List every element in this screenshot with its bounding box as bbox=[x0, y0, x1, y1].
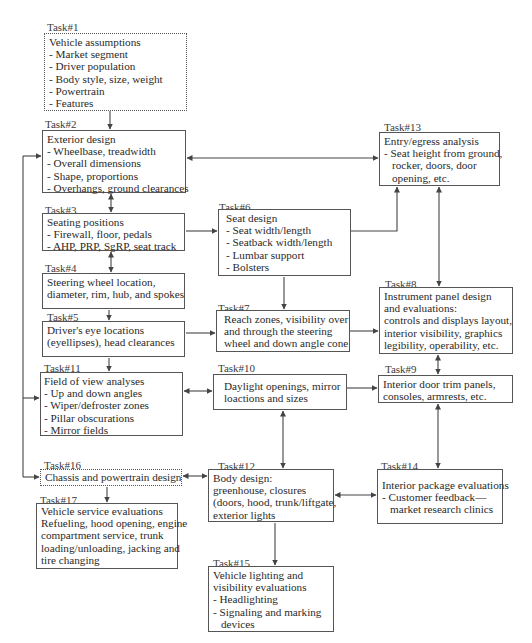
task11-item: - Up and down angles bbox=[44, 387, 178, 399]
task9-label: Task#9 bbox=[385, 363, 417, 375]
task10-daylight-openings-box: Daylight openings, mirror loactions and … bbox=[213, 374, 347, 410]
task1-item: - Powertrain bbox=[49, 85, 182, 97]
task10-label: Task#10 bbox=[218, 362, 255, 374]
task11-item: - Pillar obscurations bbox=[44, 412, 178, 424]
task5-line: (eyellipses), head clearances bbox=[47, 336, 180, 348]
task12-line: greenhouse, closures bbox=[213, 484, 329, 496]
task2-item: - Wheelbase, treadwidth bbox=[47, 145, 181, 157]
task1-item: - Driver population bbox=[49, 60, 182, 72]
task6-item: - Lumbar support bbox=[226, 249, 346, 261]
task13-line: - Seat height from ground, bbox=[384, 147, 495, 159]
arrow-t6-t13 bbox=[351, 187, 397, 231]
task7-line: wheel and down angle cone bbox=[224, 337, 345, 349]
task15-line: - Headlighting bbox=[213, 593, 329, 605]
task15-vehicle-lighting-box: Vehicle lighting and visibility evaluati… bbox=[208, 566, 334, 632]
task4-line: diameter, rim, hub, and spokes bbox=[47, 288, 180, 300]
task16-chassis-powertrain-box: Chassis and powertrain design bbox=[40, 469, 182, 486]
task17-line: Vehicle service evaluations bbox=[41, 505, 173, 517]
task12-line: exterior lights bbox=[213, 509, 329, 521]
task2-title: Exterior design bbox=[47, 133, 181, 145]
task17-line: compartment service, trunk bbox=[41, 529, 173, 541]
task1-item: - Features bbox=[49, 97, 182, 109]
task3-item: - AHP, PRP, SgRP, seat track bbox=[47, 240, 180, 252]
task2-item: - Overhangs, ground clearances bbox=[47, 182, 181, 194]
task14-title: Interior package evaluations bbox=[382, 479, 498, 491]
task5-eye-locations-box: Driver's eye locations (eyellipses), hea… bbox=[42, 321, 185, 357]
task11-item: - Wiper/defroster zones bbox=[44, 399, 178, 411]
task1-label: Task#1 bbox=[47, 21, 79, 33]
task2-label: Task#2 bbox=[45, 118, 77, 130]
task8-line: legibility, operability, etc. bbox=[384, 339, 508, 351]
task3-item: - Firewall, floor, pedals bbox=[47, 228, 180, 240]
task15-line: devices bbox=[213, 618, 329, 630]
task13-line: rocker, doors, door bbox=[384, 159, 495, 171]
task13-title: Entry/egress analysis bbox=[384, 135, 495, 147]
task1-title: Vehicle assumptions bbox=[49, 36, 182, 48]
task8-instrument-panel-box: Instrument panel design and evaluations:… bbox=[379, 287, 513, 354]
task7-line: Reach zones, visibility over bbox=[224, 313, 345, 325]
task11-item: - Mirror fields bbox=[44, 424, 178, 436]
task17-line: loading/unloading, jacking and bbox=[41, 542, 173, 554]
task6-item: - Seat width/length bbox=[226, 224, 346, 236]
task11-field-of-view-box: Field of view analyses - Up and down ang… bbox=[40, 372, 183, 436]
task3-seating-positions-box: Seating positions - Firewall, floor, ped… bbox=[42, 213, 185, 251]
task6-item: - Seatback width/length bbox=[226, 236, 346, 248]
task8-line: interior visibility, graphics bbox=[384, 327, 508, 339]
task1-item: - Market segment bbox=[49, 48, 182, 60]
task15-line: - Signaling and marking bbox=[213, 606, 329, 618]
task7-reach-zones-box: Reach zones, visibility over and through… bbox=[216, 310, 350, 352]
task12-body-design-box: Body design: greenhouse, closures (doors… bbox=[208, 469, 334, 522]
task8-line: controls and displays layout, bbox=[384, 314, 508, 326]
task1-vehicle-assumptions-box: Vehicle assumptions - Market segment - D… bbox=[44, 33, 187, 111]
task16-line: Chassis and powertrain design bbox=[45, 471, 177, 483]
task15-line: Vehicle lighting and bbox=[213, 569, 329, 581]
task2-item: - Overall dimensions bbox=[47, 157, 181, 169]
task13-entry-egress-box: Entry/egress analysis - Seat height from… bbox=[379, 132, 500, 186]
task9-door-trim-box: Interior door trim panels, consoles, arm… bbox=[378, 375, 513, 403]
task-flow-diagram: Task#1 Vehicle assumptions - Market segm… bbox=[0, 0, 532, 643]
task11-title: Field of view analyses bbox=[44, 375, 178, 387]
task17-line: tire changing bbox=[41, 554, 173, 566]
task10-line: loactions and sizes bbox=[224, 392, 342, 404]
task9-line: consoles, armrests, etc. bbox=[383, 390, 508, 402]
task12-line: (doors, hood, trunk/liftgate, bbox=[213, 496, 329, 508]
task8-line: Instrument panel design bbox=[384, 290, 508, 302]
task17-vehicle-service-box: Vehicle service evaluations Refueling, h… bbox=[36, 503, 178, 569]
task14-line: market research clinics bbox=[382, 503, 498, 515]
task8-line: and evaluations: bbox=[384, 302, 508, 314]
task3-title: Seating positions bbox=[47, 216, 180, 228]
task12-line: Body design: bbox=[213, 472, 329, 484]
task14-interior-package-box: Interior package evaluations - Customer … bbox=[377, 469, 503, 524]
task13-line: opening, etc. bbox=[384, 172, 495, 184]
task6-item: - Bolsters bbox=[226, 261, 346, 273]
task4-steering-wheel-box: Steering wheel location, diameter, rim, … bbox=[42, 273, 185, 309]
task15-line: visibility evaluations bbox=[213, 581, 329, 593]
task17-line: Refueling, hood opening, engine bbox=[41, 517, 173, 529]
task9-line: Interior door trim panels, bbox=[383, 378, 508, 390]
task6-title: Seat design bbox=[226, 212, 346, 224]
task2-exterior-design-box: Exterior design - Wheelbase, treadwidth … bbox=[42, 130, 186, 193]
task14-line: - Customer feedback— bbox=[382, 491, 498, 503]
task6-seat-design-box: Seat design - Seat width/length - Seatba… bbox=[218, 209, 351, 276]
task5-line: Driver's eye locations bbox=[47, 324, 180, 336]
task4-line: Steering wheel location, bbox=[47, 276, 180, 288]
task10-line: Daylight openings, mirror bbox=[224, 380, 342, 392]
task7-line: and through the steering bbox=[224, 325, 345, 337]
task1-item: - Body style, size, weight bbox=[49, 73, 182, 85]
task2-item: - Shape, proportions bbox=[47, 170, 181, 182]
